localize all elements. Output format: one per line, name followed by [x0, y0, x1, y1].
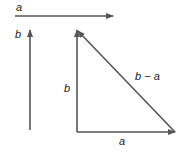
label-b-minus-a: b − a	[135, 70, 160, 82]
vector-diagram: a b b b − a a	[0, 0, 181, 152]
label-b-left: b	[15, 28, 21, 40]
label-a-top: a	[16, 1, 22, 13]
label-a-triangle: a	[119, 135, 125, 147]
triangle: b b − a a	[64, 30, 175, 147]
vector-b-standalone: b	[15, 28, 30, 130]
label-b-triangle: b	[64, 82, 70, 94]
vector-a-standalone: a	[15, 1, 113, 16]
